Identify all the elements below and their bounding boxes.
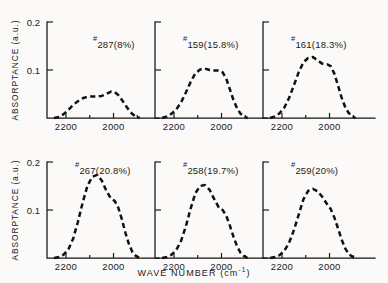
y-axis-title: ABSORPTANCE (a.u.) bbox=[10, 160, 20, 261]
y-tick-label: 0.2 bbox=[27, 17, 40, 28]
y-axis-title: ABSORPTANCE (a.u.) bbox=[10, 20, 20, 121]
panel-label: #287(8%) bbox=[93, 34, 135, 51]
spectrum-panel-159: 22002000#159(15.8%) bbox=[155, 22, 267, 132]
x-tick-label: 2000 bbox=[102, 121, 124, 132]
x-tick-label: 2000 bbox=[102, 261, 124, 272]
y-tick-label: 0.1 bbox=[27, 205, 40, 216]
spectrum-panel-267: 0.20.122002000#267(20.8%) bbox=[27, 157, 159, 272]
x-tick-label: 2000 bbox=[318, 121, 340, 132]
x-tick-label: 2200 bbox=[271, 261, 293, 272]
axis-frame bbox=[263, 162, 375, 258]
axis-frame bbox=[47, 162, 159, 258]
axis-frame bbox=[263, 22, 375, 118]
x-tick-label: 2200 bbox=[271, 121, 293, 132]
panel-label: #258(19.7%) bbox=[183, 160, 239, 177]
x-tick-label: 2000 bbox=[318, 261, 340, 272]
panel-label: #267(20.8%) bbox=[75, 160, 131, 177]
figure-container: 0.20.122002000#287(8%)22002000#159(15.8%… bbox=[0, 0, 388, 283]
spectrum-panel-161: 22002000#161(18.3%) bbox=[263, 22, 375, 132]
y-tick-label: 0.2 bbox=[27, 157, 40, 168]
panel-label: #159(15.8%) bbox=[183, 34, 239, 51]
spectrum-panel-258: 22002000#258(19.7%) bbox=[155, 160, 267, 273]
spectrum-curve bbox=[162, 185, 248, 258]
y-tick-label: 0.1 bbox=[27, 65, 40, 76]
spectrum-curve bbox=[54, 92, 140, 118]
panel-label: #259(20%) bbox=[291, 160, 338, 177]
x-tick-label: 2000 bbox=[210, 121, 232, 132]
spectrum-panel-259: 22002000#259(20%) bbox=[263, 160, 375, 273]
x-axis-title: WAVE NUMBER (cm-1) bbox=[137, 266, 250, 278]
spectrum-panel-287: 0.20.122002000#287(8%) bbox=[27, 17, 159, 132]
spectrum-curve bbox=[270, 57, 356, 118]
spectra-figure: 0.20.122002000#287(8%)22002000#159(15.8%… bbox=[0, 0, 388, 283]
x-tick-label: 2200 bbox=[55, 261, 77, 272]
x-tick-label: 2200 bbox=[163, 121, 185, 132]
panel-label: #161(18.3%) bbox=[291, 34, 347, 51]
spectrum-curve bbox=[270, 189, 356, 258]
spectrum-curve bbox=[54, 175, 140, 258]
axis-frame bbox=[155, 162, 267, 258]
axis-frame bbox=[47, 22, 159, 118]
spectrum-curve bbox=[162, 69, 248, 118]
axis-frame bbox=[155, 22, 267, 118]
x-tick-label: 2200 bbox=[55, 121, 77, 132]
